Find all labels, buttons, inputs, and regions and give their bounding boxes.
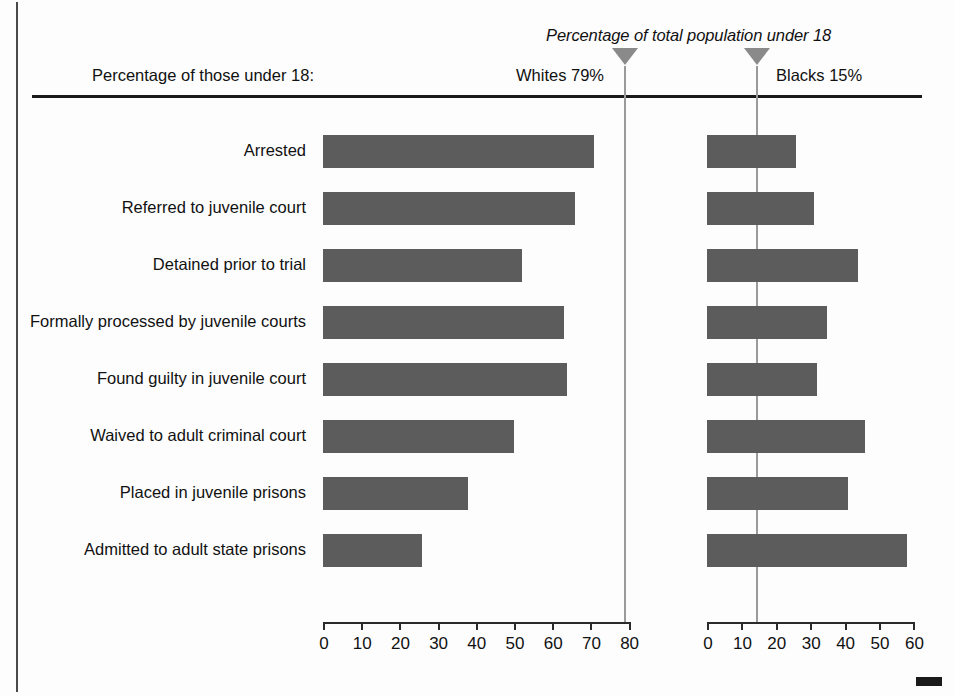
bar-whites [323, 135, 594, 168]
x-tick [776, 622, 778, 630]
x-tick-label: 50 [871, 634, 890, 654]
bar-blacks [707, 363, 817, 396]
category-label: Admitted to adult state prisons [84, 540, 306, 559]
x-tick-label: 80 [620, 634, 639, 654]
page-corner-mark [916, 677, 942, 686]
x-tick [552, 622, 554, 630]
x-tick [913, 622, 915, 630]
marker-label-blacks: Blacks 15% [776, 66, 862, 85]
category-label: Placed in juvenile prisons [120, 483, 306, 502]
category-label: Arrested [244, 141, 306, 160]
left-header-label: Percentage of those under 18: [92, 66, 314, 85]
x-tick [707, 622, 709, 630]
x-tick [476, 622, 478, 630]
bar-whites [323, 306, 564, 339]
x-tick-label: 10 [353, 634, 372, 654]
bar-whites [323, 192, 575, 225]
x-tick-label: 30 [429, 634, 448, 654]
marker-triangle-whites-icon [612, 48, 638, 65]
bar-whites [323, 249, 522, 282]
x-tick [438, 622, 440, 630]
x-tick [323, 622, 325, 630]
x-tick-label: 20 [767, 634, 786, 654]
x-tick-label: 70 [582, 634, 601, 654]
x-tick-label: 0 [319, 634, 328, 654]
x-tick-label: 50 [506, 634, 525, 654]
category-label: Referred to juvenile court [122, 198, 306, 217]
page-left-rule [16, 2, 18, 692]
x-tick [810, 622, 812, 630]
x-tick [741, 622, 743, 630]
chart-page: Percentage of total population under 18 … [0, 0, 954, 696]
x-tick [361, 622, 363, 630]
top-cut-text [120, 0, 520, 8]
bar-blacks [707, 420, 865, 453]
bar-whites [323, 363, 567, 396]
x-tick-label: 40 [467, 634, 486, 654]
x-tick-label: 30 [802, 634, 821, 654]
bar-blacks [707, 192, 814, 225]
bar-blacks [707, 306, 827, 339]
marker-label-whites: Whites 79% [516, 66, 604, 85]
x-tick [590, 622, 592, 630]
x-tick-label: 40 [836, 634, 855, 654]
x-tick-label: 0 [703, 634, 712, 654]
annotation-total-population: Percentage of total population under 18 [546, 26, 831, 45]
x-tick [399, 622, 401, 630]
bar-blacks [707, 534, 907, 567]
x-tick-label: 60 [544, 634, 563, 654]
category-label: Found guilty in juvenile court [97, 369, 306, 388]
x-tick [629, 622, 631, 630]
bar-blacks [707, 477, 848, 510]
x-tick-label: 60 [905, 634, 924, 654]
x-tick [845, 622, 847, 630]
category-label: Formally processed by juvenile courts [30, 312, 306, 331]
category-label: Waived to adult criminal court [90, 426, 306, 445]
bar-whites [323, 420, 514, 453]
x-tick [514, 622, 516, 630]
reference-line-whites-79 [624, 66, 626, 624]
header-rule [32, 95, 922, 98]
bar-blacks [707, 249, 858, 282]
bar-whites [323, 477, 468, 510]
marker-triangle-blacks-icon [744, 48, 770, 65]
bar-whites [323, 534, 422, 567]
x-tick [879, 622, 881, 630]
bar-blacks [707, 135, 796, 168]
x-tick-label: 20 [391, 634, 410, 654]
category-label: Detained prior to trial [153, 255, 306, 274]
x-tick-label: 10 [733, 634, 752, 654]
